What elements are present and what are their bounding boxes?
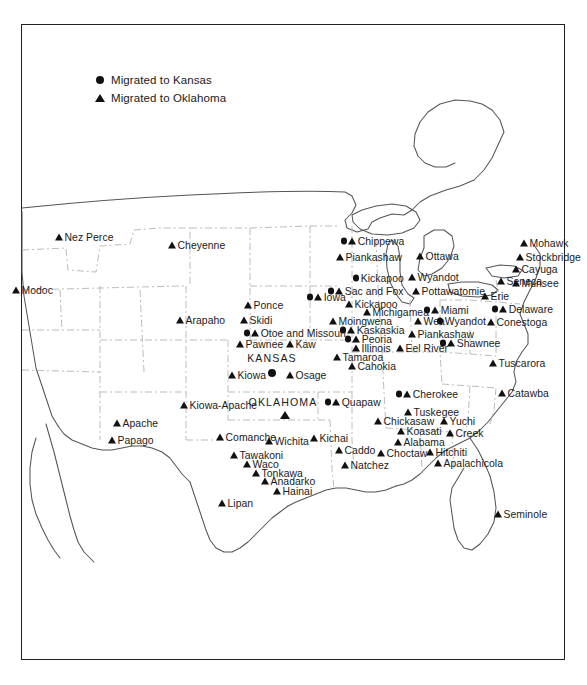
tribe-marker-glyphs [12,287,20,294]
tribe-marker-glyphs [307,294,322,301]
tribe-label: Otoe and Missouri [261,328,346,339]
triangle-marker-icon [348,363,356,370]
triangle-marker-icon [404,409,412,416]
tribe-marker-glyphs [252,470,260,477]
tribe-marker-glyphs [353,275,359,281]
tribe-marker-glyphs [108,437,116,444]
map-figure: Migrated to Kansas Migrated to Oklahoma … [0,0,587,685]
tribe-marker: Kiowa [228,370,266,381]
tribe-marker: Skidi [240,315,272,326]
marker-glyph [280,411,290,419]
tribe-marker-glyphs [414,318,422,325]
triangle-marker-icon [243,461,251,468]
circle-marker-icon [396,391,402,397]
tribe-label: Wyandot [445,316,486,327]
tribe-label: Lipan [228,498,254,509]
tribe-marker: Stockbridge [516,252,581,263]
tribe-marker-glyphs [352,345,360,352]
circle-marker-icon [492,306,498,312]
tribe-marker-glyphs [416,253,424,260]
tribe-marker: Wichita [265,436,309,447]
triangle-marker-icon [434,460,442,467]
tribe-marker-glyphs [345,301,353,308]
tribe-label: Erie [491,291,510,302]
triangle-marker-icon [286,341,294,348]
tribe-marker-glyphs [286,372,294,379]
triangle-marker-icon [489,360,497,367]
tribe-marker-glyphs [494,511,502,518]
tribe-marker-glyphs [377,450,385,457]
triangle-marker-icon [218,500,226,507]
tribe-label: Kiowa-Apache [190,400,258,411]
tribe-marker-glyphs [492,306,507,313]
tribe-marker-glyphs [408,274,416,281]
tribe-marker: Hainai [273,486,312,497]
tribe-marker: Kichai [310,433,348,444]
triangle-marker-icon [333,354,341,361]
tribe-marker: Kaw [286,339,316,350]
triangle-marker-icon [520,240,528,247]
triangle-marker-icon [512,280,520,287]
triangle-marker-icon [92,94,108,102]
tribe-label: Pawnee [246,339,284,350]
map-legend: Migrated to Kansas Migrated to Oklahoma [92,72,226,108]
tribe-marker: Otoe and Missouri [244,328,346,339]
triangle-marker-icon [352,336,360,343]
circle-marker-icon [268,363,276,381]
tribe-label: Skidi [250,315,273,326]
tribe-label: Yuchi [450,416,476,427]
tribe-marker-glyphs [498,390,506,397]
tribe-marker: Modoc [12,285,53,296]
tribe-marker-glyphs [440,340,455,347]
tribe-marker: Natchez [341,460,389,471]
tribe-marker: Apalachicola [434,458,503,469]
triangle-marker-icon [397,428,405,435]
tribe-marker: Conestoga [487,317,547,328]
tribe-marker-glyphs [244,302,252,309]
tribe-marker-glyphs [489,360,497,367]
tribe-marker-glyphs [512,266,520,273]
triangle-marker-icon [416,253,424,260]
tribe-label: Kiowa [238,370,267,381]
tribe-marker: Seminole [494,509,547,520]
tribe-marker-glyphs [265,438,273,445]
triangle-marker-icon [280,405,290,423]
tribe-marker-glyphs [426,449,434,456]
tribe-marker: Cheyenne [168,240,225,251]
tribe-marker-glyphs [341,462,349,469]
triangle-marker-icon [426,449,434,456]
tribe-marker: Koasati [397,426,442,437]
triangle-marker-icon [348,238,356,245]
tribe-label: Osage [296,370,327,381]
triangle-marker-icon [481,293,489,300]
triangle-marker-icon [335,447,343,454]
triangle-marker-icon [414,318,422,325]
tribe-marker-glyphs [340,327,355,334]
tribe-label: Piankashaw [346,252,403,263]
tribe-marker-glyphs [374,418,382,425]
triangle-marker-icon [261,478,269,485]
tribe-marker-glyphs [55,234,63,241]
tribe-marker-glyphs [396,391,411,398]
tribe-marker: Miami [424,305,469,316]
tribe-label: Sac and Fox [345,286,404,297]
legend-label-oklahoma: Migrated to Oklahoma [111,92,226,104]
tribe-marker-glyphs [230,452,238,459]
tribe-label: Wichita [275,436,309,447]
tribe-marker: Pottawatomie [412,286,485,297]
tribe-marker-glyphs [512,280,520,287]
triangle-marker-icon [12,287,20,294]
tribe-marker: Yuchi [440,416,475,427]
legend-item-oklahoma: Migrated to Oklahoma [92,90,226,106]
triangle-marker-icon [252,470,260,477]
circle-marker-icon [341,238,347,244]
tribe-label: Hitchiti [436,447,468,458]
triangle-marker-icon [447,340,455,347]
marker-glyph [268,369,276,377]
triangle-marker-icon [347,327,355,334]
tribe-label: Apalachicola [444,458,504,469]
tribe-label: Pottawatomie [422,286,486,297]
triangle-marker-icon [446,430,454,437]
tribe-marker-glyphs [363,309,371,316]
tribe-marker-glyphs [240,317,248,324]
